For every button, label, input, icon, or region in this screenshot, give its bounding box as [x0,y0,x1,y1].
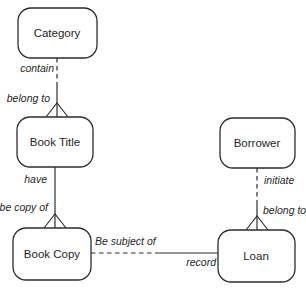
entity-category: Category [18,8,97,58]
relationship-label-have: have [24,173,47,185]
relationship-label-be-copy-of: be copy of [0,201,49,213]
connector-booktitle-bookcopy [44,167,66,228]
relationship-label-belong-to-loan: belong to [263,204,306,216]
entity-label-loan: Loan [243,250,269,262]
relationship-label-record: record [186,256,217,268]
entity-borrower: Borrower [220,118,295,168]
entity-loan: Loan [218,230,295,282]
entity-label-category: Category [34,27,81,39]
relationship-label-be-subject-of: Be subject of [95,235,157,247]
er-diagram-canvas: contain belong to have be copy of initia… [0,0,306,290]
er-diagram: contain belong to have be copy of initia… [0,0,306,290]
entity-label-borrower: Borrower [234,137,281,149]
entity-book-copy: Book Copy [13,228,91,280]
relationship-label-contain: contain [20,62,54,74]
entity-book-title: Book Title [17,117,93,167]
entity-label-book-title: Book Title [30,136,81,148]
relationship-label-belong-to: belong to [7,92,50,104]
relationship-label-initiate: initiate [264,174,295,186]
entity-label-book-copy: Book Copy [24,248,81,260]
